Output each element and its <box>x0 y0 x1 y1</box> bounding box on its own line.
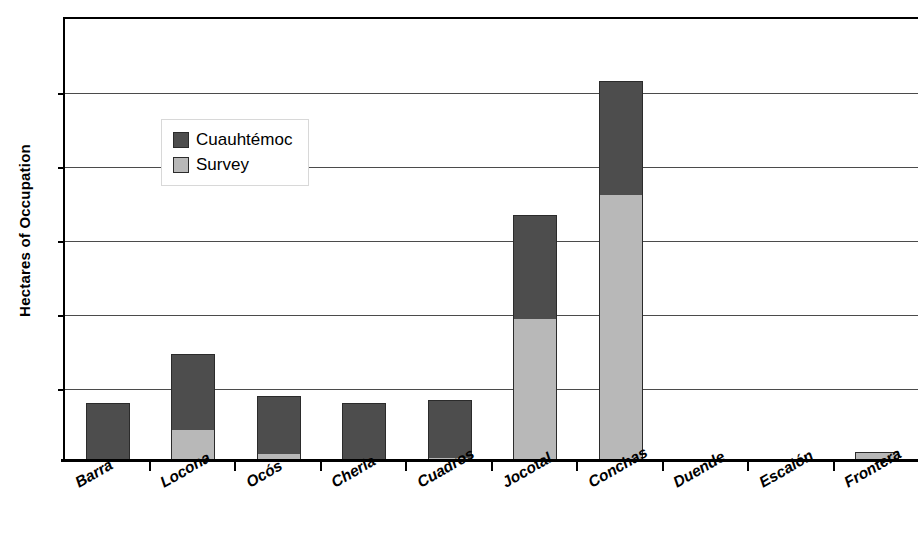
bar-stack <box>342 403 386 461</box>
y-tick-mark <box>58 93 65 95</box>
x-tick-mark <box>491 462 493 471</box>
x-tick-mark <box>576 462 578 471</box>
x-tick-mark <box>149 462 151 471</box>
bar-stack <box>599 81 643 461</box>
chart-legend: CuauhtémocSurvey <box>161 119 309 186</box>
bar-segment-cuauhtemoc <box>513 215 557 319</box>
gridline <box>65 241 918 242</box>
y-tick-mark <box>58 167 65 169</box>
bar-segment-cuauhtemoc <box>342 403 386 461</box>
bar-segment-cuauhtemoc <box>599 81 643 195</box>
bar-stack <box>171 354 215 461</box>
bar-segment-survey <box>599 195 643 461</box>
x-tick-mark <box>320 462 322 471</box>
x-tick-mark <box>405 462 407 471</box>
bar-segment-cuauhtemoc <box>171 354 215 429</box>
y-tick-mark <box>58 241 65 243</box>
bar-segment-cuauhtemoc <box>257 396 301 454</box>
x-tick-mark <box>234 462 236 471</box>
legend-label: Cuauhtémoc <box>196 131 292 148</box>
bar-chart: Hectares of Occupation CuauhtémocSurvey … <box>0 0 918 544</box>
gridline <box>65 93 918 94</box>
bar-segment-survey <box>513 319 557 461</box>
y-axis-title: Hectares of Occupation <box>16 61 33 401</box>
bar-stack <box>257 396 301 461</box>
bar-stack <box>513 215 557 461</box>
y-tick-mark <box>58 315 65 317</box>
bar-segment-cuauhtemoc <box>86 403 130 461</box>
x-tick-mark <box>662 462 664 471</box>
x-tick-mark <box>833 462 835 471</box>
legend-swatch-icon <box>173 132 189 148</box>
legend-swatch-icon <box>173 157 189 173</box>
bar-stack <box>86 403 130 461</box>
gridline <box>65 315 918 316</box>
plot-area: CuauhtémocSurvey <box>63 17 918 461</box>
legend-label: Survey <box>196 156 249 173</box>
y-tick-mark <box>58 389 65 391</box>
legend-entry: Survey <box>173 152 292 177</box>
legend-entry: Cuauhtémoc <box>173 127 292 152</box>
x-tick-mark <box>747 462 749 471</box>
